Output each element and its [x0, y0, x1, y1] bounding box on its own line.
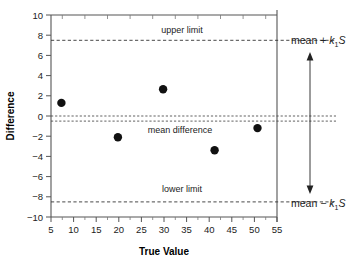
y-tick-label: −8	[32, 191, 43, 202]
data-point	[57, 99, 65, 107]
x-tick-label: 50	[249, 224, 260, 235]
x-tick-label: 40	[204, 224, 215, 235]
x-tick-label: 55	[272, 224, 283, 235]
y-tick-label: −6	[32, 171, 43, 182]
lower-limit-label: lower limit	[162, 184, 203, 194]
x-tick-label: 5	[48, 224, 53, 235]
x-tick-label: 45	[227, 224, 238, 235]
s-symbol: S	[338, 197, 345, 209]
x-tick-label: 10	[68, 224, 79, 235]
mean-minus-prefix: mean −	[291, 197, 329, 209]
s-symbol: S	[338, 34, 345, 46]
y-tick-label: 2	[38, 90, 43, 101]
x-tick-label: 20	[114, 224, 125, 235]
x-tick-label: 35	[181, 224, 192, 235]
data-point	[159, 85, 167, 93]
chart-svg: 10 8 6 4 2 0 −2 −4 −6 −8 −10 Difference	[0, 0, 358, 266]
mean-difference-label: mean difference	[148, 125, 212, 135]
mean-plus-prefix: mean +	[291, 34, 329, 46]
x-tick-label: 15	[91, 224, 102, 235]
y-tick-label: −2	[32, 131, 43, 142]
y-tick-label: −4	[32, 151, 43, 162]
y-tick-label: 4	[38, 70, 43, 81]
data-point	[210, 146, 218, 154]
y-tick-label: −10	[27, 212, 43, 223]
y-tick-label: 0	[38, 111, 43, 122]
data-point	[253, 124, 261, 132]
y-tick-label: 8	[38, 30, 43, 41]
x-tick-label: 30	[159, 224, 170, 235]
y-tick-label: 6	[38, 50, 43, 61]
bland-altman-difference-plot: 10 8 6 4 2 0 −2 −4 −6 −8 −10 Difference	[0, 0, 358, 266]
x-axis-title: True Value	[139, 246, 189, 257]
y-tick-label: 10	[32, 10, 43, 21]
data-point	[114, 133, 122, 141]
y-axis-title: Difference	[5, 91, 16, 140]
x-tick-label: 25	[136, 224, 147, 235]
upper-limit-label: upper limit	[161, 25, 203, 35]
